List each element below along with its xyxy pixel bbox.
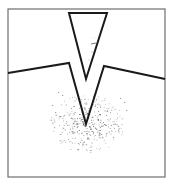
indentation-diagram [0,0,171,183]
